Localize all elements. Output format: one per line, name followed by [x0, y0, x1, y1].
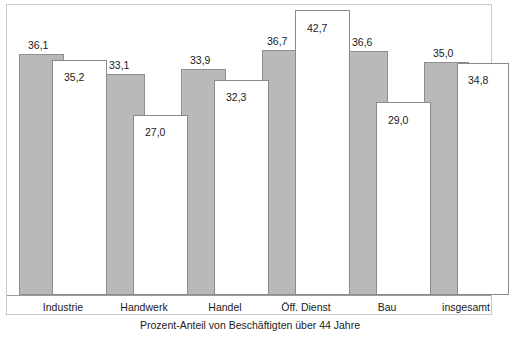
bar-white-handel: [214, 80, 269, 295]
bar-value-gray-bau: 36,6: [352, 37, 372, 48]
bar-value-white-handel: 32,3: [226, 92, 246, 103]
category-label-bau: Bau: [343, 302, 431, 313]
category-label-industrie: Industrie: [19, 302, 107, 313]
bar-value-gray-oeff-dienst: 36,7: [267, 36, 287, 47]
bar-white-handwerk: [133, 115, 188, 295]
bar-group-handwerk: 33,1 27,0 Handwerk: [100, 5, 188, 295]
axis-baseline: [7, 295, 491, 296]
chart-caption: Prozent-Anteil von Beschäftigten über 44…: [0, 320, 500, 331]
category-label-insgesamt: insgesamt: [422, 302, 510, 313]
bar-value-white-oeff-dienst: 42,7: [307, 23, 327, 34]
category-label-oeff-dienst: Öff. Dienst: [262, 302, 350, 313]
category-label-handwerk: Handwerk: [100, 302, 188, 313]
bar-group-insgesamt: 35,0 34,8 insgesamt: [424, 5, 512, 295]
bar-white-industrie: [52, 60, 107, 295]
bar-value-white-handwerk: 27,0: [145, 127, 165, 138]
bar-white-bau: [376, 102, 431, 295]
bar-value-gray-industrie: 36,1: [28, 40, 48, 51]
bar-value-gray-insgesamt: 35,0: [433, 48, 453, 59]
bar-group-handel: 33,9 32,3 Handel: [181, 5, 269, 295]
bar-white-insgesamt: [457, 63, 509, 295]
bar-group-industrie: 36,1 35,2 Industrie: [19, 5, 107, 295]
category-label-handel: Handel: [181, 302, 269, 313]
bar-group-oeff-dienst: 36,7 42,7 Öff. Dienst: [262, 5, 350, 295]
bar-value-white-insgesamt: 34,8: [468, 75, 488, 86]
bar-white-oeff-dienst: [295, 10, 350, 295]
bar-value-white-bau: 29,0: [388, 115, 408, 126]
bar-group-bau: 36,6 29,0 Bau: [343, 5, 431, 295]
bar-value-gray-handwerk: 33,1: [109, 60, 129, 71]
bar-value-white-industrie: 35,2: [64, 72, 84, 83]
bar-value-gray-handel: 33,9: [190, 55, 210, 66]
plot-area: 36,1 35,2 Industrie 33,1 27,0 Handwerk 3…: [7, 5, 491, 296]
